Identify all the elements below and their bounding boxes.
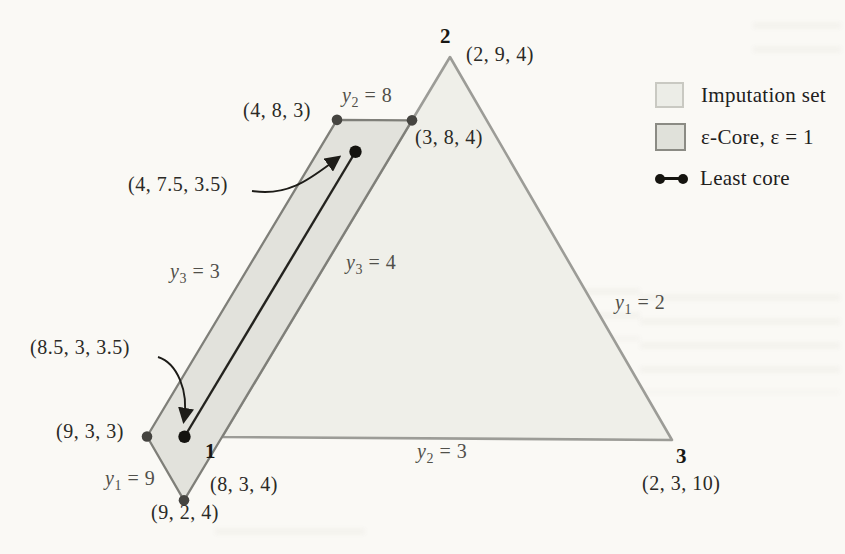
vertex-dot (179, 495, 190, 506)
epsilon-core-swatch (655, 123, 686, 151)
least-core-dot (349, 146, 361, 158)
legend-label-epsilon-core: ε-Core, ε = 1 (701, 125, 814, 150)
legend-item-least-core: Least core (655, 166, 826, 191)
legend-item-epsilon-core: ε-Core, ε = 1 (655, 123, 826, 151)
vertex-dot (407, 115, 418, 126)
legend-item-imputation-set: Imputation set (655, 82, 826, 108)
least-core-swatch (655, 174, 688, 184)
imputation-set-swatch (655, 82, 684, 108)
legend: Imputation set ε-Core, ε = 1 Least core (655, 82, 826, 206)
least-core-dot (178, 431, 190, 443)
least-core-swatch-line (664, 177, 679, 180)
vertex-dot (332, 115, 343, 126)
legend-label-imputation-set: Imputation set (701, 83, 826, 108)
legend-label-least-core: Least core (700, 166, 790, 191)
figure-ternary-game-diagram: 1(8, 3, 4)2(2, 9, 4)3(2, 3, 10)(4, 8, 3)… (0, 0, 845, 554)
least-core-swatch-dot (678, 174, 688, 184)
vertex-dot (142, 431, 153, 442)
